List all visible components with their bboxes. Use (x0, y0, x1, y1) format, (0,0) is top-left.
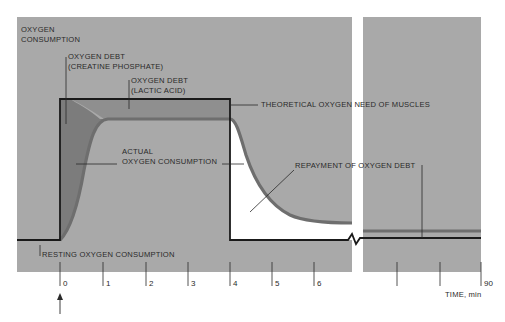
tick-label-3: 3 (191, 279, 195, 288)
label-resting: RESTING OXYGEN CONSUMPTION (42, 250, 175, 260)
actual-line1: ACTUAL (122, 147, 217, 157)
lactic-line2: (LACTIC ACID) (131, 86, 188, 96)
label-lactic-debt: OXYGEN DEBT (LACTIC ACID) (131, 76, 188, 96)
label-theoretical-need: THEORETICAL OXYGEN NEED OF MUSCLES (261, 100, 430, 110)
tick-label-2: 2 (149, 279, 153, 288)
start-arrow-icon (57, 293, 63, 314)
label-repayment: REPAYMENT OF OXYGEN DEBT (295, 161, 415, 171)
tick-label-1: 1 (106, 279, 110, 288)
x-axis-label: TIME, min (445, 290, 481, 300)
tick-label-0: 0 (63, 279, 67, 288)
tick-label-90: 90 (484, 279, 493, 288)
oxygen-debt-diagram (0, 0, 505, 322)
y-axis-label-line1: OXYGEN (21, 25, 80, 35)
tick-label-4: 4 (233, 279, 237, 288)
creatine-line1: OXYGEN DEBT (68, 52, 163, 62)
creatine-line2: (CREATINE PHOSPHATE) (68, 62, 163, 72)
tick-label-6: 6 (317, 279, 321, 288)
lactic-line1: OXYGEN DEBT (131, 76, 188, 86)
label-creatine-debt: OXYGEN DEBT (CREATINE PHOSPHATE) (68, 52, 163, 72)
y-axis-label: OXYGEN CONSUMPTION (21, 25, 80, 45)
tick-label-5: 5 (275, 279, 279, 288)
y-axis-label-line2: CONSUMPTION (21, 35, 80, 45)
actual-line2: OXYGEN CONSUMPTION (122, 157, 217, 167)
label-actual-consumption: ACTUAL OXYGEN CONSUMPTION (122, 147, 217, 167)
